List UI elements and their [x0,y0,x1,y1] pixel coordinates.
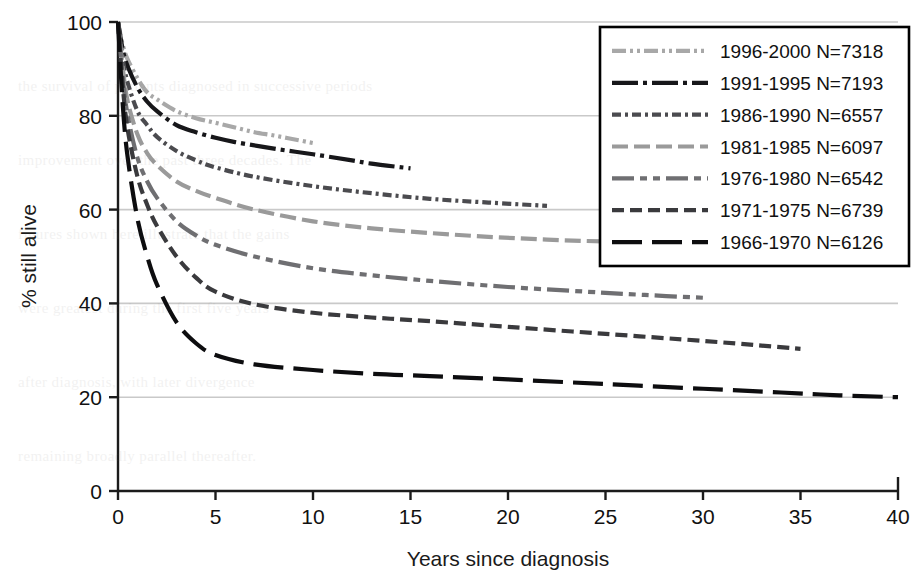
x-axis-tick-labels: 0510152025303540 [112,505,910,528]
survival-curve [118,22,411,168]
x-tick-label: 40 [886,505,909,528]
chart-legend: 1996-2000 N=73181991-1995 N=71931986-199… [600,27,909,266]
x-tick-label: 0 [112,505,124,528]
legend-label: 1986-1990 N=6557 [720,105,883,126]
x-tick-label: 30 [691,505,714,528]
legend-label: 1996-2000 N=7318 [720,41,883,62]
x-tick-label: 5 [210,505,222,528]
x-tick-label: 25 [594,505,617,528]
chart-canvas: 020406080100 0510152025303540 % still al… [0,0,921,572]
legend-label: 1971-1975 N=6739 [720,200,883,221]
y-tick-label: 60 [79,199,102,222]
y-tick-label: 100 [67,11,102,34]
legend-label: 1966-1970 N=6126 [720,232,883,253]
legend-label: 1981-1985 N=6097 [720,137,883,158]
y-tick-label: 80 [79,105,102,128]
y-tick-label: 40 [79,292,102,315]
y-tick-label: 20 [79,386,102,409]
legend-label: 1976-1980 N=6542 [720,168,883,189]
y-axis-label: % still alive [17,204,40,308]
y-axis-tick-labels: 020406080100 [67,11,102,503]
survival-chart-figure: 020406080100 0510152025303540 % still al… [0,0,921,572]
x-axis-label: Years since diagnosis [407,547,609,570]
survival-curve [118,22,547,206]
x-tick-label: 20 [496,505,519,528]
legend-label: 1991-1995 N=7193 [720,73,883,94]
y-tick-label: 0 [90,480,102,503]
x-tick-label: 15 [399,505,422,528]
x-tick-label: 35 [789,505,812,528]
x-tick-label: 10 [301,505,324,528]
